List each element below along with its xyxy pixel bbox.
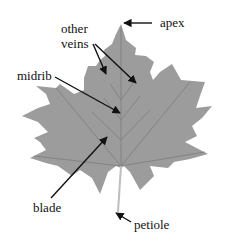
petiole-shape xyxy=(118,166,121,212)
label-other-veins-line1: other xyxy=(61,21,88,36)
petiole-arrow xyxy=(116,213,131,222)
label-petiole: petiole xyxy=(134,217,170,232)
leaf-blade-shape xyxy=(22,24,212,194)
label-midrib: midrib xyxy=(17,68,52,83)
label-apex: apex xyxy=(160,15,185,30)
label-other-veins-line2: veins xyxy=(61,36,88,51)
label-blade: blade xyxy=(33,200,61,215)
maple-leaf-diagram: apex other veins midrib blade petiole xyxy=(0,0,229,250)
